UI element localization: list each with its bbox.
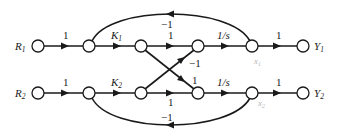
label-y1: Y1 — [314, 40, 324, 54]
gain-x1-y1: 1 — [276, 29, 282, 41]
node-y2 — [297, 87, 309, 99]
node-b1 — [135, 40, 147, 52]
label-x1: x1 — [253, 56, 261, 67]
label-r1: R1 — [14, 40, 25, 54]
label-x2: x2 — [257, 98, 265, 109]
node-a2 — [83, 87, 95, 99]
node-c2 — [192, 87, 204, 99]
gain-cross-down: 1 — [192, 74, 198, 86]
gain-r2-a2: 1 — [63, 76, 69, 88]
gain-feedback-2: −1 — [161, 111, 173, 123]
gain-c1-x1: 1/s — [217, 29, 230, 41]
gain-b2-c2: 1 — [168, 96, 174, 108]
node-r1 — [32, 40, 44, 52]
gain-cross-up: −1 — [189, 57, 201, 69]
gain-c2-x2: 1/s — [217, 76, 230, 88]
label-y2: Y2 — [314, 87, 324, 101]
gain-b1-c1: 1 — [168, 29, 174, 41]
node-y1 — [297, 40, 309, 52]
gain-k1: K1 — [110, 29, 122, 43]
node-r2 — [32, 87, 44, 99]
label-r2: R2 — [14, 87, 26, 101]
gain-k2: K2 — [110, 76, 122, 90]
signal-flow-graph: R1 R2 Y1 Y2 x1 x2 1 K1 1 1/s 1 −1 1 K2 1… — [0, 0, 341, 139]
node-x1 — [246, 40, 258, 52]
node-b2 — [135, 87, 147, 99]
gain-x2-y2: 1 — [276, 76, 282, 88]
node-c1 — [192, 40, 204, 52]
node-a1 — [83, 40, 95, 52]
node-x2 — [246, 87, 258, 99]
gain-feedback-1: −1 — [161, 18, 173, 30]
gain-r1-a1: 1 — [63, 29, 69, 41]
